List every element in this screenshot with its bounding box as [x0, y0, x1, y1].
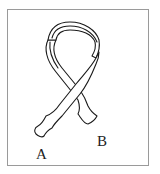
- ribbon-loop-illustration: [0, 0, 160, 174]
- end-label-a: A: [36, 147, 47, 162]
- end-label-b: B: [97, 134, 107, 149]
- ribbon-loop-top: [48, 22, 99, 58]
- ribbon-strand-a: [35, 52, 99, 137]
